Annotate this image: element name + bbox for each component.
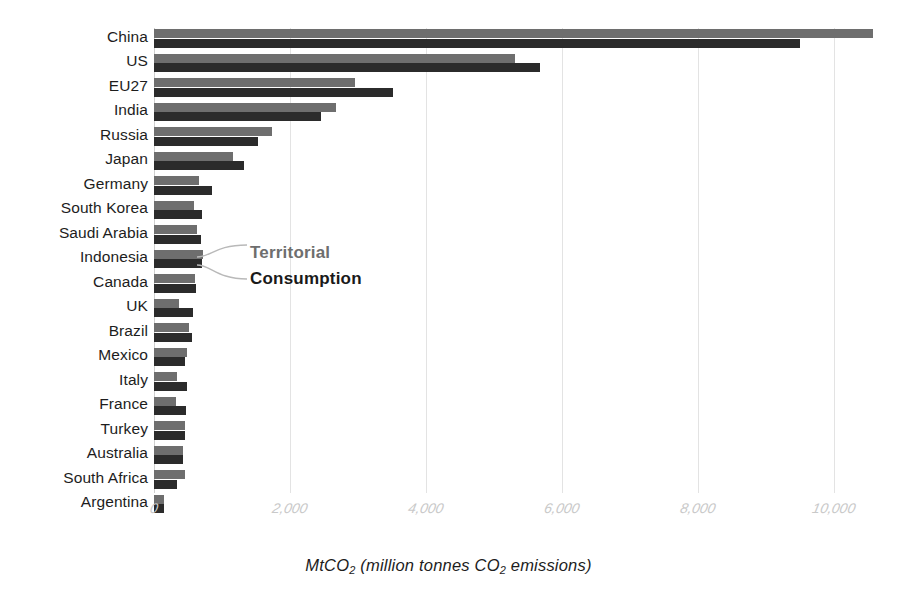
- bar-territorial: [154, 299, 179, 308]
- category-label: Italy: [0, 368, 148, 393]
- bar-row: [154, 469, 834, 494]
- bar-territorial: [154, 446, 183, 455]
- x-axis-title-tail: emissions): [506, 556, 592, 574]
- x-tick-label-0: 0: [149, 500, 160, 516]
- category-axis-labels: ChinaUSEU27IndiaRussiaJapanGermanySouth …: [0, 28, 148, 493]
- bar-territorial: [154, 274, 195, 283]
- legend-label-consumption: Consumption: [250, 269, 362, 289]
- gridline-10000: [834, 28, 835, 493]
- bar-territorial: [154, 127, 272, 136]
- bar-consumption: [154, 333, 192, 342]
- bar-territorial: [154, 421, 185, 430]
- bar-row: [154, 126, 834, 151]
- bar-territorial: [154, 372, 177, 381]
- bar-territorial: [154, 225, 197, 234]
- category-label: EU27: [0, 74, 148, 99]
- bar-consumption: [154, 431, 185, 440]
- category-label: Turkey: [0, 417, 148, 442]
- category-label: UK: [0, 294, 148, 319]
- category-label: South Africa: [0, 466, 148, 491]
- x-axis-title: MtCO2 (million tonnes CO2 emissions): [0, 556, 897, 576]
- bar-consumption: [154, 406, 186, 415]
- category-label: Saudi Arabia: [0, 221, 148, 246]
- legend-label-territorial: Territorial: [250, 243, 330, 263]
- x-tick-label-2000: 2,000: [271, 500, 309, 516]
- bar-consumption: [154, 480, 177, 489]
- bar-consumption: [154, 357, 185, 366]
- bar-territorial: [154, 397, 176, 406]
- category-label: US: [0, 49, 148, 74]
- bar-row: [154, 102, 834, 127]
- bar-territorial: [154, 348, 187, 357]
- leader-line-territorial: [197, 245, 247, 257]
- bar-consumption: [154, 39, 800, 48]
- bar-territorial: [154, 470, 185, 479]
- x-axis-tick-labels: 02,0004,0006,0008,00010,000: [154, 500, 834, 526]
- bar-consumption: [154, 186, 212, 195]
- bar-territorial: [154, 78, 355, 87]
- bar-row: [154, 175, 834, 200]
- category-label: India: [0, 98, 148, 123]
- x-tick-label-10000: 10,000: [811, 500, 857, 516]
- bar-row: [154, 322, 834, 347]
- leader-line-consumption: [197, 265, 247, 279]
- bar-row: [154, 347, 834, 372]
- category-label: Australia: [0, 441, 148, 466]
- category-label: Canada: [0, 270, 148, 295]
- bar-row: [154, 53, 834, 78]
- emissions-bar-chart: ChinaUSEU27IndiaRussiaJapanGermanySouth …: [0, 0, 897, 603]
- bar-row: [154, 371, 834, 396]
- x-tick-label-4000: 4,000: [407, 500, 445, 516]
- x-axis-title-mt: MtCO: [305, 556, 349, 574]
- bar-territorial: [154, 54, 515, 63]
- bar-territorial: [154, 152, 233, 161]
- bar-consumption: [154, 88, 393, 97]
- bar-territorial: [154, 103, 336, 112]
- bar-consumption: [154, 63, 540, 72]
- bar-territorial: [154, 201, 194, 210]
- x-axis-title-mid: (million tonnes CO: [356, 556, 500, 574]
- bar-territorial: [154, 323, 189, 332]
- category-label: Brazil: [0, 319, 148, 344]
- bar-consumption: [154, 455, 183, 464]
- x-tick-label-8000: 8,000: [679, 500, 717, 516]
- bar-consumption: [154, 308, 193, 317]
- category-label: France: [0, 392, 148, 417]
- bar-consumption: [154, 284, 196, 293]
- category-label: Russia: [0, 123, 148, 148]
- bar-row: [154, 151, 834, 176]
- category-label: South Korea: [0, 196, 148, 221]
- bar-consumption: [154, 210, 202, 219]
- bar-consumption: [154, 112, 321, 121]
- bar-row: [154, 396, 834, 421]
- bar-row: [154, 445, 834, 470]
- bar-consumption: [154, 161, 244, 170]
- bar-consumption: [154, 235, 201, 244]
- category-label: China: [0, 25, 148, 50]
- bar-territorial: [154, 29, 873, 38]
- category-label: Japan: [0, 147, 148, 172]
- bar-row: [154, 200, 834, 225]
- category-label: Germany: [0, 172, 148, 197]
- category-label: Indonesia: [0, 245, 148, 270]
- category-label: Argentina: [0, 490, 148, 515]
- bar-row: [154, 77, 834, 102]
- bar-territorial: [154, 176, 199, 185]
- bar-consumption: [154, 137, 258, 146]
- category-label: Mexico: [0, 343, 148, 368]
- bar-row: [154, 28, 834, 53]
- x-tick-label-6000: 6,000: [543, 500, 581, 516]
- bar-consumption: [154, 382, 187, 391]
- bar-row: [154, 420, 834, 445]
